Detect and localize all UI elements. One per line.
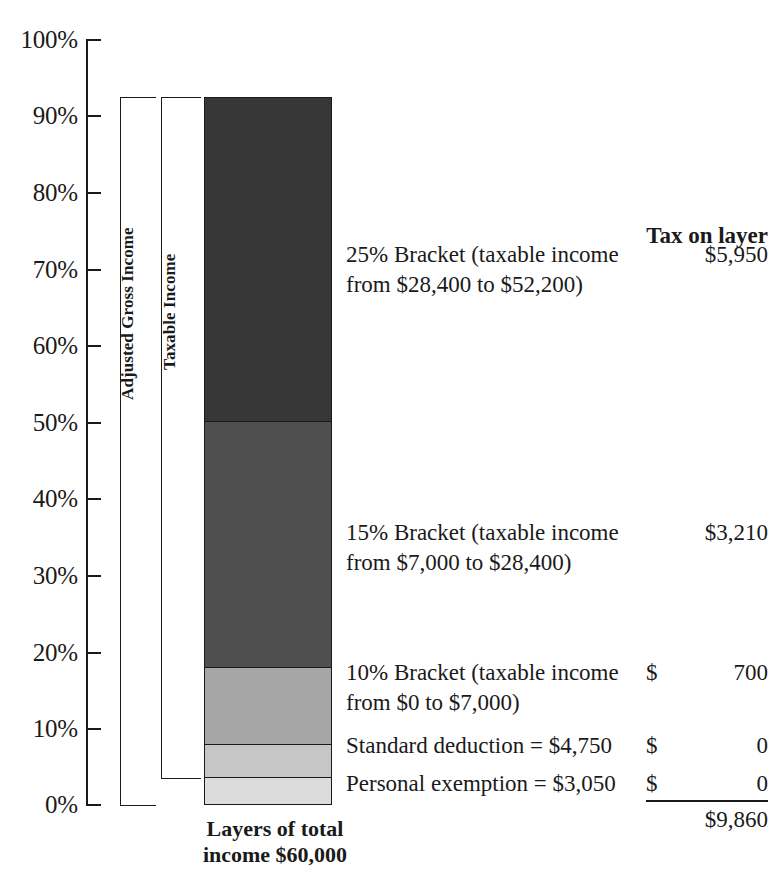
- layer-description-25-bracket-line2: from $28,400 to $52,200): [346, 270, 646, 300]
- layer-description-15-bracket-line2: from $7,000 to $28,400): [346, 548, 646, 578]
- y-tick-60: [86, 345, 101, 347]
- layer-description-25-bracket-line1: 25% Bracket (taxable income: [346, 240, 646, 270]
- layer-tax-25-bracket: $5,950: [616, 240, 768, 270]
- y-tick-0: [86, 804, 101, 806]
- layer-description-25-bracket: 25% Bracket (taxable income from $28,400…: [346, 240, 646, 300]
- bar-segment-personal-exemption: [204, 778, 332, 805]
- bracket-adjusted-gross-income: [120, 97, 156, 806]
- y-tick-label-40: 40%: [6, 486, 78, 511]
- layer-description-15-bracket-line1: 15% Bracket (taxable income: [346, 518, 646, 548]
- y-tick-label-30: 30%: [6, 563, 78, 588]
- y-tick-40: [86, 498, 101, 500]
- y-tick-label-70: 70%: [6, 257, 78, 282]
- y-tick-10: [86, 728, 101, 730]
- layer-description-15-bracket: 15% Bracket (taxable income from $7,000 …: [346, 518, 646, 578]
- layer-tax-standard-deduction-currency: $: [646, 731, 658, 761]
- layer-tax-personal-exemption: $ 0: [616, 769, 768, 799]
- layer-tax-10-bracket: $ 700: [616, 658, 768, 688]
- layer-tax-10-bracket-value: 700: [734, 658, 769, 688]
- total-separator-rule: [646, 800, 768, 802]
- y-tick-90: [86, 115, 101, 117]
- y-tick-label-20: 20%: [6, 640, 78, 665]
- layer-tax-10-bracket-currency: $: [646, 658, 658, 688]
- y-tick-label-90: 90%: [6, 103, 78, 128]
- y-tick-label-50: 50%: [6, 410, 78, 435]
- layer-tax-personal-exemption-value: 0: [757, 769, 769, 799]
- y-tick-100: [86, 39, 101, 41]
- y-tick-50: [86, 422, 101, 424]
- chart-caption: Layers of total income $60,000: [140, 816, 410, 868]
- y-tick-label-80: 80%: [6, 180, 78, 205]
- bar-segment-standard-deduction: [204, 745, 332, 778]
- layer-description-10-bracket: 10% Bracket (taxable income from $0 to $…: [346, 658, 646, 718]
- chart-caption-line2: income $60,000: [140, 842, 410, 868]
- layer-description-personal-exemption: Personal exemption = $3,050: [346, 769, 646, 799]
- bracket-label-adjusted-gross-income: Adjusted Gross Income: [118, 227, 138, 400]
- y-tick-30: [86, 575, 101, 577]
- bar-segment-15-bracket: [204, 422, 332, 668]
- layer-tax-personal-exemption-currency: $: [646, 769, 658, 799]
- layer-tax-15-bracket: $3,210: [616, 518, 768, 548]
- layer-description-10-bracket-line1: 10% Bracket (taxable income: [346, 658, 646, 688]
- chart-caption-line1: Layers of total: [140, 816, 410, 842]
- y-tick-label-100: 100%: [6, 27, 78, 52]
- bar-segment-25-bracket: [204, 97, 332, 422]
- y-tick-80: [86, 192, 101, 194]
- layer-tax-standard-deduction: $ 0: [616, 731, 768, 761]
- bracket-label-taxable-income: Taxable Income: [160, 254, 180, 370]
- bracket-taxable-income: [161, 97, 201, 779]
- layer-description-standard-deduction: Standard deduction = $4,750: [346, 731, 646, 761]
- total-tax-amount: $9,860: [616, 806, 768, 834]
- y-tick-label-10: 10%: [6, 716, 78, 741]
- y-tick-label-60: 60%: [6, 333, 78, 358]
- y-tick-20: [86, 652, 101, 654]
- tax-layers-chart: 100% 90% 80% 70% 60% 50% 40% 30% 20% 10%…: [0, 0, 776, 876]
- y-tick-70: [86, 269, 101, 271]
- bar-segment-10-bracket: [204, 668, 332, 745]
- y-tick-label-0: 0%: [6, 792, 78, 817]
- layer-tax-standard-deduction-value: 0: [757, 731, 769, 761]
- layer-description-10-bracket-line2: from $0 to $7,000): [346, 688, 646, 718]
